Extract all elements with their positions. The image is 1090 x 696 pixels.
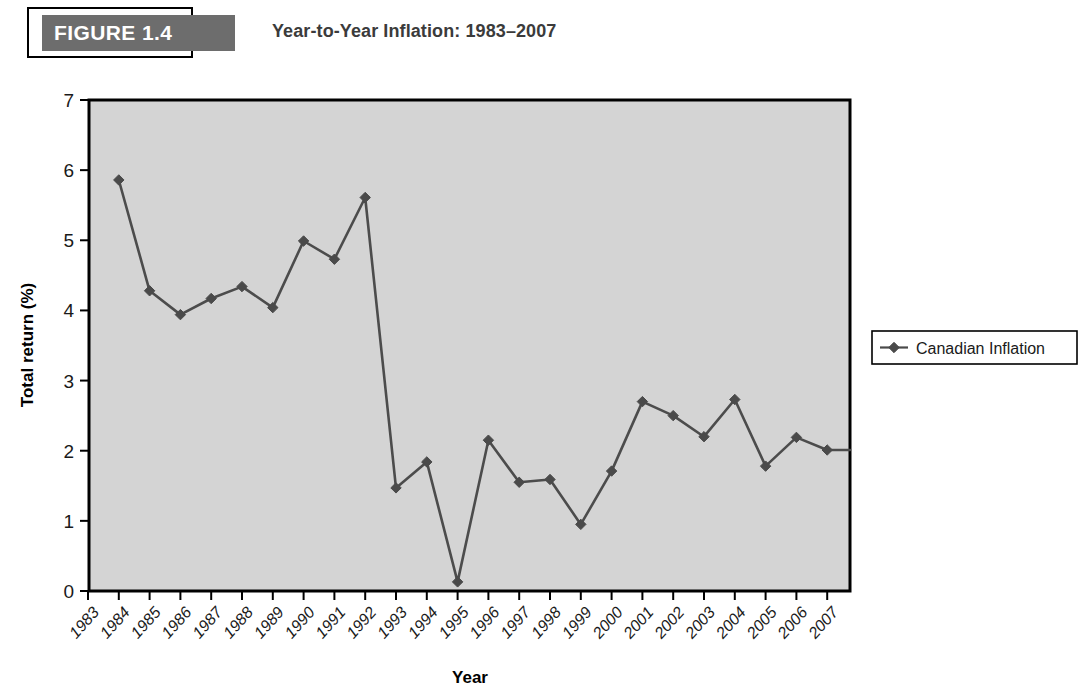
x-tick-label: 2006 <box>774 604 811 643</box>
x-tick-label: 2007 <box>804 603 842 642</box>
y-tick-label: 3 <box>63 371 74 392</box>
x-tick-label: 2003 <box>681 604 718 643</box>
y-tick-label: 4 <box>63 300 74 321</box>
inflation-line-chart: 01234567 1983198419851986198719881989199… <box>0 0 1090 696</box>
plot-area-background <box>89 100 850 591</box>
x-tick-label: 2005 <box>743 604 780 643</box>
x-tick-label: 1991 <box>312 604 348 642</box>
x-tick-label: 2002 <box>650 604 687 643</box>
x-tick-label: 2004 <box>712 604 749 643</box>
y-tick-label: 1 <box>63 511 74 532</box>
x-tick-label: 1998 <box>528 604 565 642</box>
y-tick-label: 2 <box>63 441 74 462</box>
x-tick-label: 1989 <box>251 604 288 642</box>
y-tick-label: 5 <box>63 230 74 251</box>
y-tick-label: 6 <box>63 160 74 181</box>
x-tick-label: 1987 <box>189 603 226 642</box>
x-tick-label: 1999 <box>559 604 596 642</box>
chart-canvas: 01234567 1983198419851986198719881989199… <box>0 0 1090 696</box>
y-axis-title: Total return (%) <box>18 283 37 407</box>
y-axis-ticks: 01234567 <box>63 90 89 602</box>
x-tick-label: 1985 <box>127 604 164 642</box>
x-tick-label: 1996 <box>466 604 503 642</box>
x-tick-label: 1990 <box>281 604 318 642</box>
x-tick-label: 1993 <box>374 604 411 642</box>
x-tick-label: 1994 <box>405 604 442 642</box>
x-tick-label: 1992 <box>343 604 380 642</box>
x-tick-label: 1997 <box>497 603 534 642</box>
x-tick-label: 2001 <box>620 604 657 643</box>
x-tick-label: 1984 <box>97 604 134 642</box>
x-axis-title: Year <box>452 668 488 687</box>
x-tick-label: 1988 <box>220 604 257 642</box>
x-tick-label: 1986 <box>158 604 195 642</box>
x-axis-ticks: 1983198419851986198719881989199019911992… <box>66 591 842 642</box>
x-tick-label: 1983 <box>66 604 103 642</box>
x-tick-label: 2000 <box>589 604 626 643</box>
legend-label: Canadian Inflation <box>916 340 1045 357</box>
x-tick-label: 1995 <box>435 604 472 642</box>
chart-legend: Canadian Inflation <box>872 331 1077 364</box>
y-tick-label: 7 <box>63 90 74 111</box>
y-tick-label: 0 <box>63 581 74 602</box>
